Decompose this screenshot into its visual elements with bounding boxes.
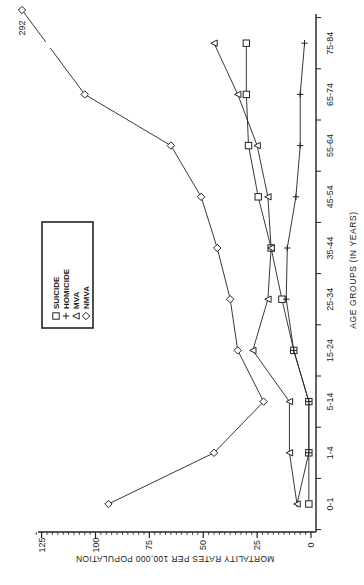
category-label: 35-44: [325, 236, 335, 259]
marker-triangle: [211, 40, 217, 46]
marker-square: [255, 194, 261, 200]
category-label: 15-24: [325, 339, 335, 362]
category-label: 45-54: [325, 185, 335, 208]
marker-plus: [297, 91, 303, 97]
marker-plus: [297, 142, 303, 148]
mortality-chart: 0-11-45-1415-2425-3435-4445-5455-6465-74…: [0, 0, 364, 585]
marker-plus: [293, 194, 299, 200]
value-tick-label: 25: [252, 540, 262, 550]
marker-diamond: [18, 6, 25, 13]
marker-diamond: [214, 244, 221, 251]
marker-triangle: [250, 347, 256, 353]
marker-diamond: [105, 500, 112, 507]
legend-label-mva: MVA: [72, 292, 81, 309]
category-label: 25-34: [325, 288, 335, 311]
legend-marker-suicide: [53, 313, 59, 319]
marker-diamond: [167, 142, 174, 149]
legend: SUICIDEHOMICIDEMVANMVA: [42, 222, 93, 328]
series-homicide: [283, 40, 312, 507]
marker-square: [243, 40, 249, 46]
category-label: 65-74: [325, 83, 335, 106]
category-label: 55-64: [325, 134, 335, 157]
category-label: 1-4: [325, 446, 335, 459]
y-axis-title: MORTALITY RATES PER 100,000 POPULATION: [76, 554, 275, 564]
value-tick-label: 75: [144, 540, 154, 550]
value-tick-label: 125: [37, 537, 47, 552]
category-label: 0-1: [325, 497, 335, 510]
category-label: 5-14: [325, 393, 335, 411]
legend-label-homicide: HOMICIDE: [62, 268, 71, 309]
marker-triangle: [254, 142, 260, 148]
marker-triangle: [235, 91, 241, 97]
marker-diamond: [234, 347, 241, 354]
value-tick-label: 50: [198, 540, 208, 550]
annotation-292: 292: [17, 20, 27, 35]
marker-square: [245, 142, 251, 148]
value-tick-label: 0: [306, 542, 316, 547]
marker-diamond: [81, 91, 88, 98]
series-suicide: [243, 40, 312, 507]
category-label: 75-84: [325, 32, 335, 55]
marker-plus: [284, 245, 290, 251]
x-axis-title: AGE GROUPS (IN YEARS): [348, 211, 358, 328]
marker-square: [306, 501, 312, 507]
legend-label-nmva: NMVA: [82, 286, 91, 309]
value-tick-label: 100: [91, 537, 101, 552]
marker-square: [243, 91, 249, 97]
marker-plus: [301, 40, 307, 46]
marker-diamond: [197, 193, 204, 200]
legend-label-suicide: SUICIDE: [52, 276, 61, 309]
marker-diamond: [226, 296, 233, 303]
